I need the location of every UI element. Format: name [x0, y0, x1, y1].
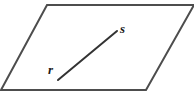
segment-endpoint-label-s: s [120, 22, 125, 35]
geometry-diagram: s r [0, 0, 194, 110]
line-segment-rs [58, 31, 117, 80]
segment-endpoint-label-r: r [48, 63, 53, 76]
diagram-canvas [0, 0, 194, 110]
